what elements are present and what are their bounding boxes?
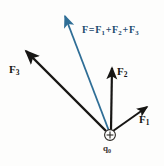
vector-label-F2: F2 <box>117 66 127 79</box>
equation-term-3-subscript: 3 <box>135 29 139 36</box>
equation-plus-2: + <box>122 24 129 35</box>
vector-label-F1-base: F <box>139 113 146 125</box>
vector-label-F1-subscript: 1 <box>146 118 150 127</box>
force-vector-figure: F1 F2 F3 q0 F=F1+F2+F3 <box>0 0 164 166</box>
resultant-equation-label: F=F1+F2+F3 <box>82 25 139 37</box>
vector-F2-arrow <box>111 68 112 130</box>
vector-label-F2-base: F <box>117 65 124 77</box>
test-charge-label-subscript: 0 <box>108 148 111 154</box>
test-charge-symbol <box>105 130 116 141</box>
vector-label-F3-base: F <box>9 63 16 75</box>
vector-label-F1: F1 <box>139 114 149 127</box>
vector-label-F3-subscript: 3 <box>16 68 20 77</box>
vector-label-F3: F3 <box>9 64 19 77</box>
test-charge-label: q0 <box>103 144 111 154</box>
vector-label-F2-subscript: 2 <box>124 70 128 79</box>
equation-plus-1: + <box>105 24 112 35</box>
